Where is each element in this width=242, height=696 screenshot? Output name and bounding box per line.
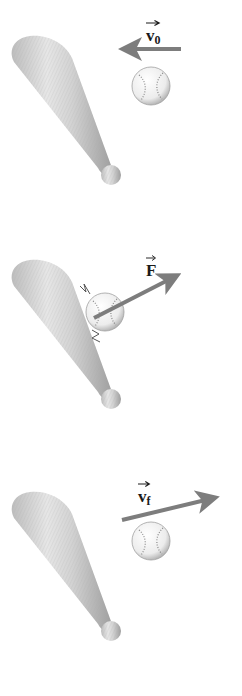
bat-before <box>0 0 242 230</box>
vector-arrow-icon <box>146 20 161 26</box>
panel-during: F <box>0 226 242 462</box>
baseball-after <box>132 522 170 560</box>
velocity-arrow-final <box>122 498 214 520</box>
baseball-before <box>132 67 170 105</box>
label-vf: vf <box>138 488 151 507</box>
impact-burst-icon <box>92 330 100 342</box>
impact-burst-icon <box>80 284 90 294</box>
bat-during <box>0 226 242 462</box>
vector-arrow-icon <box>146 255 156 261</box>
panel-after: vf <box>0 458 242 696</box>
panel-before: v0 <box>0 0 242 230</box>
vector-arrow-icon <box>138 481 151 487</box>
label-v0: v0 <box>146 27 161 46</box>
label-F: F <box>146 262 156 279</box>
bat-after <box>0 458 242 696</box>
